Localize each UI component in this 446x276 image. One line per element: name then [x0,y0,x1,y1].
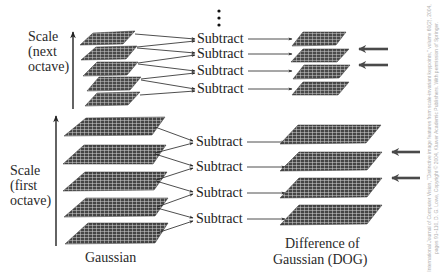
subtract-label: Subtract [196,160,243,174]
sift-dog-diagram: Scale (next octave) Scale (first octave)… [0,0,446,276]
extrema-highlight-arrows-first [392,152,420,178]
scale-label-line: Scale [10,163,51,178]
subtract-label: Subtract [197,64,244,78]
scale-label-line: octave) [10,193,51,208]
gaussian-to-subtract-arrows-next [135,34,195,95]
subtract-label: Subtract [196,135,243,149]
dog-column-label-line1: Difference of [285,236,360,251]
subtract-to-dog-arrows-first [247,142,285,219]
subtract-label: Subtract [196,186,243,200]
gaussian-column-label: Gaussian [85,250,136,265]
gaussian-planes-first-octave [63,117,168,244]
extrema-highlight-arrows-next [359,49,388,65]
subtract-label: Subtract [197,82,244,96]
scale-label-line: (first [10,178,51,193]
scale-label-line: octave) [28,59,69,74]
continuation-dots-icon [217,9,220,26]
scale-label-first-octave: Scale (first octave) [10,163,51,208]
subtract-label: Subtract [196,212,243,226]
scale-label-line: Scale [28,29,69,44]
scale-label-next-octave: Scale (next octave) [28,29,69,74]
subtract-label: Subtract [197,47,244,61]
dog-column-label-line2: Gaussian (DOG) [273,252,367,267]
gaussian-planes-next-octave [80,31,141,106]
scale-label-line: (next [28,44,69,59]
copyright-credit: International Journal of Computer Vision… [426,3,439,273]
subtract-label: Subtract [197,32,244,46]
dog-planes-next-octave [291,32,350,95]
subtract-to-dog-arrows-next [248,39,292,89]
dog-planes-first-octave [280,125,382,225]
